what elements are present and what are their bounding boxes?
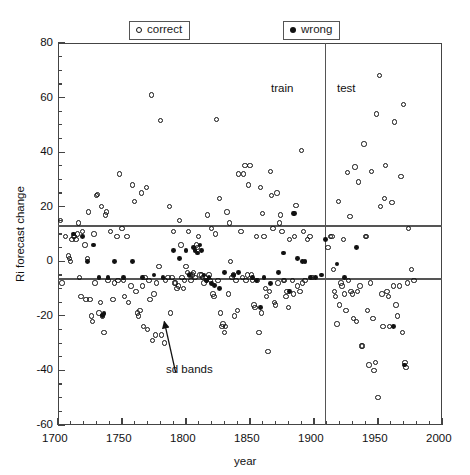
figure-root: correct wrong 17001750180018501900195020…: [0, 0, 470, 475]
sd-bands-arrow-icon: [0, 0, 470, 475]
sd-bands-label: sd bands: [166, 363, 213, 375]
y-axis-title: Ri forecast change: [14, 186, 26, 282]
x-axis-title: year: [234, 455, 256, 467]
